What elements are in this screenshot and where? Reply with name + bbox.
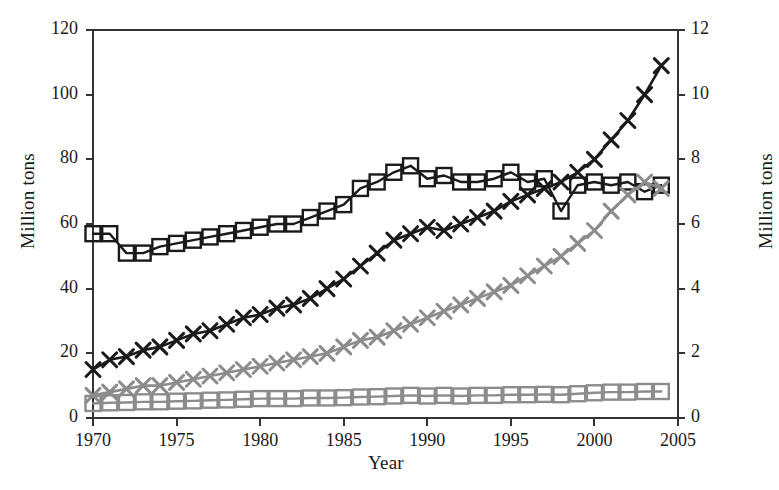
x-tick-label: 1980	[220, 430, 300, 451]
data-point-cross	[370, 246, 384, 260]
data-point-cross	[571, 236, 585, 250]
y-tick-label-right: 8	[691, 147, 751, 168]
y-tick-label-right: 10	[691, 83, 751, 104]
data-point-cross	[387, 233, 401, 247]
y-tick-label-left: 20	[0, 341, 78, 362]
data-point-cross	[303, 291, 317, 305]
data-point-cross	[420, 311, 434, 325]
data-point-cross	[638, 88, 652, 102]
data-point-cross	[554, 249, 568, 263]
data-point-cross	[387, 324, 401, 338]
y-tick-label-left: 60	[0, 212, 78, 233]
data-point-cross	[504, 278, 518, 292]
data-point-cross	[587, 152, 601, 166]
data-point-cross	[537, 259, 551, 273]
series-layer	[86, 59, 669, 411]
data-point-cross	[170, 333, 184, 347]
y-tick-label-left: 0	[0, 406, 78, 427]
x-tick-label: 2000	[554, 430, 634, 451]
y-axis-label-left: Million tons	[17, 111, 39, 291]
data-point-cross	[437, 304, 451, 318]
series-gray-crosses	[86, 175, 668, 402]
y-tick-label-left: 120	[0, 18, 78, 39]
data-point-cross	[604, 133, 618, 147]
x-tick-label: 1970	[53, 430, 133, 451]
data-point-cross	[337, 272, 351, 286]
x-tick-label: 1985	[304, 430, 384, 451]
chart-figure: Million tons Million tons Year 020406080…	[0, 0, 779, 490]
plot-area	[0, 0, 779, 490]
y-tick-label-right: 2	[691, 341, 751, 362]
y-tick-label-left: 80	[0, 147, 78, 168]
y-tick-label-right: 0	[691, 406, 751, 427]
x-tick-label: 1975	[137, 430, 217, 451]
data-point-cross	[353, 259, 367, 273]
y-axis-label-right: Million tons	[755, 111, 777, 291]
data-point-cross	[638, 175, 652, 189]
x-axis-label: Year	[93, 452, 679, 474]
data-point-cross	[320, 282, 334, 296]
data-point-cross	[487, 204, 501, 218]
data-point-cross	[487, 285, 501, 299]
data-point-cross	[454, 298, 468, 312]
data-point-cross	[521, 269, 535, 283]
series-line	[93, 182, 661, 395]
data-point-cross	[587, 223, 601, 237]
data-point-cross	[604, 204, 618, 218]
data-point-cross	[220, 317, 234, 331]
x-tick-label: 1990	[387, 430, 467, 451]
data-point-cross	[504, 194, 518, 208]
x-tick-label: 1995	[471, 430, 551, 451]
data-point-cross	[470, 291, 484, 305]
series-line	[93, 66, 661, 370]
y-tick-label-right: 12	[691, 18, 751, 39]
x-tick-label: 2005	[638, 430, 718, 451]
data-point-cross	[404, 227, 418, 241]
data-point-cross	[470, 211, 484, 225]
data-point-cross	[454, 217, 468, 231]
y-tick-label-left: 40	[0, 277, 78, 298]
y-tick-label-right: 4	[691, 277, 751, 298]
data-point-cross	[337, 340, 351, 354]
y-tick-label-right: 6	[691, 212, 751, 233]
data-point-cross	[654, 59, 668, 73]
series-black-crosses	[86, 59, 668, 377]
y-tick-label-left: 100	[0, 83, 78, 104]
data-point-cross	[554, 175, 568, 189]
data-point-cross	[621, 114, 635, 128]
data-point-cross	[404, 317, 418, 331]
